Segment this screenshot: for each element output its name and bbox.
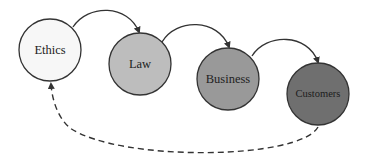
arrow-law-to-business	[162, 25, 229, 47]
arrow-customers-to-ethics-dashed	[51, 84, 318, 153]
node-label-law: Law	[129, 57, 151, 71]
influence-cycle-diagram: Ethics Law Business Customers	[0, 0, 370, 161]
arrow-business-to-customers	[252, 39, 318, 62]
node-law: Law	[109, 33, 171, 95]
node-ethics: Ethics	[19, 19, 81, 81]
node-customers: Customers	[287, 63, 349, 125]
node-label-customers: Customers	[296, 88, 341, 99]
node-label-business: Business	[206, 72, 251, 86]
node-label-ethics: Ethics	[34, 43, 65, 57]
arrow-ethics-to-law	[73, 10, 139, 32]
node-business: Business	[197, 48, 259, 110]
